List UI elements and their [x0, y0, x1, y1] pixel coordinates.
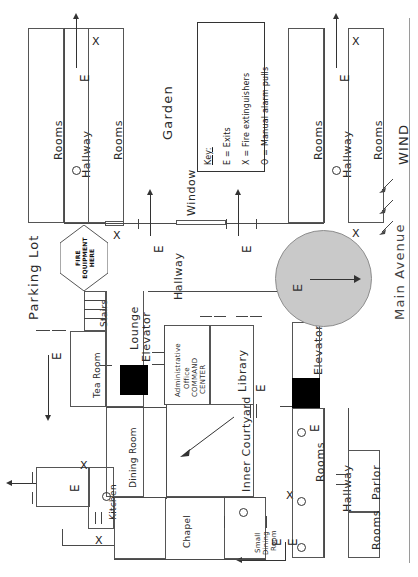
label-rooms-s: Rooms: [370, 510, 383, 550]
exit-marker-center-2: E: [242, 245, 253, 253]
wall-courtyard-left: [166, 405, 167, 499]
stair-step-3: [84, 318, 106, 319]
library-door-2: [250, 316, 262, 317]
label-dining-room: Dining Room: [128, 427, 138, 488]
exit-marker-se-bottom: E: [288, 538, 299, 546]
label-hallway-center: Hallway: [172, 252, 185, 300]
admin-door-1: [200, 316, 212, 317]
key-symbol-x: X: [242, 159, 251, 165]
key-symbol-o: O: [261, 159, 270, 166]
label-window: Window: [185, 169, 198, 216]
key-equals-x: =: [242, 150, 251, 157]
elevator-east-door-1: [280, 406, 292, 407]
label-rooms-ne-inner: Rooms: [372, 120, 385, 160]
key-row-exits: E = Exits: [223, 127, 232, 165]
street-edge-line: [409, 18, 410, 563]
center-door-1: [138, 219, 139, 229]
label-wind: WIND: [396, 124, 411, 165]
label-admin-office-line2: Office: [183, 367, 191, 389]
exit-marker-ne-top: E: [340, 74, 351, 82]
exit-marker-small-dining: E: [272, 538, 283, 546]
wind-arrow-3: [378, 218, 396, 240]
door-tick-west-1: [36, 330, 50, 331]
label-parlor: Parlor: [370, 465, 383, 500]
label-admin-office-line1: Administrative: [174, 343, 182, 397]
key-title: Key:: [204, 25, 213, 165]
elevator-west-door-1: [152, 352, 164, 353]
exit-marker-library: E: [256, 384, 267, 392]
key-equals-e: =: [223, 150, 232, 157]
kitchen-door-1: [95, 512, 96, 524]
admin-door-2: [214, 316, 226, 317]
wall-chapel-top: [114, 497, 266, 498]
label-library: Library: [236, 349, 249, 392]
extinguisher-nw-bottom: X: [113, 230, 121, 241]
library-door-1: [236, 316, 248, 317]
label-chapel: Chapel: [182, 515, 192, 548]
assembly-exit-label: E: [290, 283, 305, 292]
label-tea-room: Tea Room: [92, 352, 102, 398]
label-small-dining-line2: Dining: [262, 531, 270, 555]
elevator-west-door-2: [152, 364, 164, 365]
elevator-east-shaft: [292, 378, 320, 408]
alarm-pull-small-dining: [239, 508, 248, 517]
wall-lounge-dining-divider: [106, 407, 166, 408]
fire-equipment-line1: FIRE: [74, 250, 81, 266]
label-elevator-west: Elevator: [140, 312, 153, 362]
exit-marker-nw-top: E: [80, 74, 91, 82]
label-garden: Garden: [160, 85, 175, 140]
fire-equipment-line2: EQUIPMENT: [81, 237, 88, 279]
label-small-dining-line1: Small: [254, 533, 262, 553]
label-command-center-line1: COMMAND: [191, 358, 199, 397]
key-symbol-e: E: [223, 160, 232, 165]
exit-marker-center-1: E: [154, 245, 165, 253]
elevator-west-shaft: [120, 365, 148, 395]
wall-nw-hall-left: [64, 28, 65, 223]
chapel: [114, 497, 166, 559]
exit-marker-kitchen-west: E: [70, 484, 81, 492]
key-meaning-x: Fire extinguishers: [242, 73, 251, 147]
label-rooms-nw-inner: Rooms: [112, 120, 125, 160]
elevator-east-lobby: [292, 322, 320, 378]
exit-marker-se-top: E: [310, 424, 321, 432]
window-garden-side: [176, 220, 226, 225]
small-dining-door-2: [266, 516, 267, 528]
fire-equipment-text: FIRE EQUIPMENT HERE: [60, 228, 108, 288]
parlor-door-2: [336, 484, 348, 485]
alarm-pull-se-1: [297, 428, 306, 437]
parlor-door-1: [336, 474, 348, 475]
extinguisher-ne-bottom: X: [352, 228, 360, 239]
kitchen-door-2: [101, 512, 102, 524]
wind-arrow-2: [378, 197, 396, 219]
vestibule-door-2: [32, 492, 33, 504]
door-tick-west-2: [52, 330, 66, 331]
center-door-2: [226, 219, 227, 229]
wind-arrow-1: [378, 176, 396, 198]
extinguisher-ne-top: X: [352, 36, 360, 47]
key-equals-o: =: [261, 149, 270, 156]
wall-ne-hall-left: [324, 28, 325, 223]
courtyard-pointer-arrow: [176, 415, 236, 463]
vestibule-door-1: [32, 472, 33, 484]
stair-step-2: [84, 309, 106, 310]
fire-equipment-line3: HERE: [88, 249, 95, 268]
extinguisher-kitchen: X: [80, 460, 88, 471]
key-legend-box: Key: E = Exits X = Fire extinguishers O …: [197, 22, 265, 172]
floor-plan-diagram: Rooms Hallway Rooms E X X Parking Lot FI…: [0, 0, 418, 577]
exit-marker-west-mid: E: [52, 352, 63, 360]
small-dining-door-1: [224, 516, 225, 528]
wall-south-building-edge: [114, 559, 266, 560]
wall-sw-spur-v: [62, 529, 63, 546]
alarm-pull-se-2: [297, 497, 306, 506]
alarm-pull-kitchen: [102, 492, 111, 501]
stair-step-1: [84, 300, 106, 301]
key-meaning-o: Manual alarm pulls: [261, 67, 270, 147]
wall-sw-spur: [62, 545, 114, 546]
extinguisher-nw-top: X: [92, 36, 100, 47]
center-door-3: [256, 219, 257, 229]
label-parking-lot: Parking Lot: [26, 234, 41, 320]
key-row-alarm-pulls: O = Manual alarm pulls: [261, 67, 270, 165]
key-meaning-e: Exits: [223, 127, 232, 147]
label-command-center-line2: CENTER: [199, 365, 207, 394]
wall-se-hall-left: [324, 408, 325, 558]
